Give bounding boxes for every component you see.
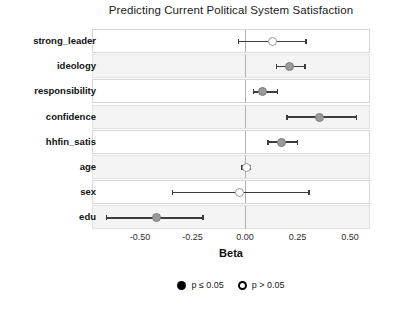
x-tick-label--0.25: -0.25: [168, 232, 218, 242]
x-tick-label--0.50: -0.50: [115, 232, 165, 242]
x-axis: Beta -0.50-0.250.000.250.50: [0, 0, 396, 315]
legend-item-significant: p ≤ 0.05: [177, 280, 223, 290]
x-tick-label-0.00: 0.00: [220, 232, 270, 242]
x-axis-title: Beta: [92, 247, 370, 259]
filled-circle-icon: [177, 281, 186, 290]
x-tick-label-0.50: 0.50: [325, 232, 375, 242]
legend-item-not_significant: p > 0.05: [238, 280, 285, 290]
hollow-circle-icon: [238, 281, 247, 290]
legend-label-not_significant: p > 0.05: [252, 280, 285, 290]
coefficient-plot: Predicting Current Political System Sati…: [0, 0, 396, 315]
legend-label-significant: p ≤ 0.05: [191, 280, 223, 290]
legend: p ≤ 0.05p > 0.05: [92, 280, 370, 290]
x-tick-label-0.25: 0.25: [273, 232, 323, 242]
